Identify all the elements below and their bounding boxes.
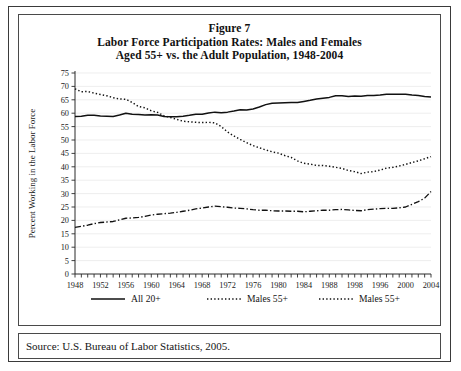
y-tick-label: 75: [61, 69, 69, 78]
legend-label-2: Males 55+: [247, 293, 288, 304]
y-tick-label: 0: [65, 270, 69, 279]
x-tick-label: 1952: [92, 281, 109, 290]
x-tick-label: 1998: [346, 281, 363, 290]
y-tick-label: 45: [61, 149, 69, 158]
y-tick-label: 25: [61, 203, 69, 212]
series-line-2: [75, 89, 431, 174]
figure-number: Figure 7: [19, 22, 440, 36]
figure-title-block: Figure 7 Labor Force Participation Rates…: [19, 15, 440, 63]
x-tick-label: 1996: [372, 281, 389, 290]
x-tick-label: 2004: [423, 281, 440, 290]
x-tick-label: 1956: [118, 281, 135, 290]
y-tick-label: 40: [61, 163, 69, 172]
y-tick-label: 5: [65, 257, 69, 266]
x-tick-label: 1964: [168, 281, 185, 290]
source-note: Source: U.S. Bureau of Labor Statistics,…: [19, 334, 440, 352]
x-tick-label: 1980: [270, 281, 287, 290]
source-panel: Source: U.S. Bureau of Labor Statistics,…: [18, 333, 441, 359]
y-axis: 051015202530354045505560657075: [61, 69, 75, 279]
y-tick-label: 50: [61, 136, 69, 145]
x-tick-label: 1948: [67, 281, 84, 290]
x-tick-label: 1984: [296, 281, 313, 290]
figure-title-line-2: Aged 55+ vs. the Adult Population, 1948-…: [19, 49, 440, 63]
y-tick-label: 10: [61, 243, 69, 252]
y-axis-title: Percent Working in the Labor Force: [27, 109, 37, 238]
x-axis: 1948195219561960196419681972197619801984…: [67, 274, 440, 290]
figure-title-line-1: Labor Force Participation Rates: Males a…: [19, 36, 440, 50]
chart: 051015202530354045505560657075 194819521…: [19, 67, 440, 325]
x-tick-label: 1960: [143, 281, 160, 290]
y-tick-label: 70: [61, 82, 69, 91]
gridlines: [75, 73, 431, 261]
y-tick-label: 65: [61, 96, 69, 105]
chart-legend: All 20+Males 55+Males 55+: [91, 293, 400, 304]
y-tick-label: 30: [61, 190, 69, 199]
x-tick-label: 1988: [321, 281, 338, 290]
y-tick-label: 15: [61, 230, 69, 239]
x-tick-label: 1976: [245, 281, 262, 290]
line-chart-svg: 051015202530354045505560657075 194819521…: [19, 67, 440, 325]
x-tick-label: 1972: [219, 281, 236, 290]
y-tick-label: 35: [61, 176, 69, 185]
legend-label-1: All 20+: [131, 293, 161, 304]
data-series: [75, 89, 431, 228]
legend-label-3: Males 55+: [359, 293, 400, 304]
series-line-3: [75, 191, 431, 227]
y-tick-label: 55: [61, 123, 69, 132]
x-tick-label: 2000: [397, 281, 414, 290]
y-tick-label: 60: [61, 109, 69, 118]
y-tick-label: 20: [61, 216, 69, 225]
y-axis-title-text: Percent Working in the Labor Force: [27, 109, 37, 238]
x-tick-label: 1968: [194, 281, 211, 290]
figure-panel: Figure 7 Labor Force Participation Rates…: [18, 14, 441, 326]
figure-outer-border: Figure 7 Labor Force Participation Rates…: [8, 6, 451, 362]
